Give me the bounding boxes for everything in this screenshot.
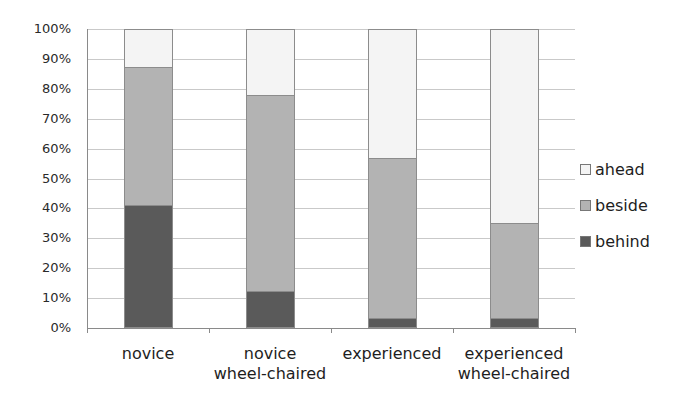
- x-tick-mark: [575, 328, 576, 333]
- x-tick-mark: [87, 328, 88, 333]
- bar-segment-ahead: [490, 29, 539, 224]
- bar-segment-beside: [490, 223, 539, 319]
- y-tick-label: 30%: [11, 231, 71, 245]
- x-axis-label: novice: [78, 344, 218, 364]
- x-axis-label-line: wheel-chaired: [444, 364, 584, 384]
- bar-novice: [124, 29, 173, 328]
- x-tick-mark: [209, 328, 210, 333]
- x-axis-label: novicewheel-chaired: [200, 344, 340, 384]
- y-tick-label: 10%: [11, 291, 71, 305]
- bar-segment-ahead: [368, 29, 417, 159]
- bar-segment-ahead: [246, 29, 295, 96]
- bar-segment-behind: [246, 291, 295, 328]
- y-tick-label: 100%: [11, 22, 71, 36]
- bar-segment-ahead: [124, 29, 173, 68]
- y-tick-label: 50%: [11, 172, 71, 186]
- bar-segment-beside: [368, 158, 417, 320]
- bar-segment-behind: [368, 318, 417, 328]
- x-tick-mark: [453, 328, 454, 333]
- x-axis-label: experiencedwheel-chaired: [444, 344, 584, 384]
- legend-label: behind: [595, 232, 650, 251]
- bar-segment-behind: [490, 318, 539, 328]
- bar-segment-behind: [124, 205, 173, 328]
- legend-label: ahead: [595, 160, 645, 179]
- legend-label: beside: [595, 196, 648, 215]
- x-tick-mark: [331, 328, 332, 333]
- x-axis-label-line: novice: [200, 344, 340, 364]
- x-axis-label: experienced: [322, 344, 462, 364]
- x-axis-label-line: experienced: [322, 344, 462, 364]
- y-tick-label: 80%: [11, 82, 71, 96]
- x-axis-label-line: novice: [78, 344, 218, 364]
- y-tick-label: 60%: [11, 142, 71, 156]
- y-tick-label: 20%: [11, 261, 71, 275]
- bar-experienced: [368, 29, 417, 328]
- bar-novice-wheel-chaired: [246, 29, 295, 328]
- legend-item-ahead: ahead: [580, 160, 645, 179]
- bar-experienced-wheel-chaired: [490, 29, 539, 328]
- legend-swatch-icon: [580, 236, 591, 247]
- y-tick-label: 40%: [11, 201, 71, 215]
- y-tick-label: 70%: [11, 112, 71, 126]
- legend-item-beside: beside: [580, 196, 648, 215]
- legend-swatch-icon: [580, 200, 591, 211]
- y-tick-label: 0%: [11, 321, 71, 335]
- stacked-bar-chart: 0%10%20%30%40%50%60%70%80%90%100% novice…: [0, 0, 687, 414]
- x-axis-label-line: experienced: [444, 344, 584, 364]
- y-tick-label: 90%: [11, 52, 71, 66]
- legend-item-behind: behind: [580, 232, 650, 251]
- x-axis-label-line: wheel-chaired: [200, 364, 340, 384]
- y-axis-line: [87, 29, 88, 329]
- bar-segment-beside: [246, 95, 295, 292]
- legend-swatch-icon: [580, 164, 591, 175]
- bar-segment-beside: [124, 67, 173, 206]
